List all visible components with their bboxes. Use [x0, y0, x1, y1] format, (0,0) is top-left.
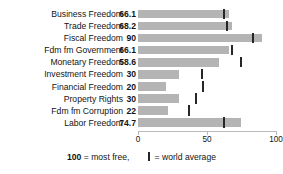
category-label: Labor Freedom — [0, 117, 123, 129]
category-label: Trade Freedom — [0, 20, 123, 32]
legend-average-text: = world average — [155, 152, 216, 162]
value-bar — [138, 46, 229, 55]
axis-tick-label: 0 — [136, 135, 141, 144]
chart-row: Monetary Freedom58.6 — [0, 56, 283, 68]
value-label: 20 — [112, 81, 136, 93]
category-label: Fdm fm Corruption — [0, 105, 123, 117]
chart-row: Property Rights30 — [0, 93, 283, 105]
world-average-marker — [202, 81, 204, 91]
bar-track — [138, 8, 276, 20]
value-bar — [138, 94, 179, 103]
world-average-marker — [223, 117, 225, 127]
value-label: 68.2 — [112, 20, 136, 32]
chart-row: Fdm fm Corruption22 — [0, 105, 283, 117]
category-label: Property Rights — [0, 93, 123, 105]
axis-tick-label: 100 — [269, 135, 283, 144]
value-label: 66.1 — [112, 8, 136, 20]
chart-row: Labor Freedom74.7 — [0, 117, 283, 129]
category-label: Business Freedom — [0, 8, 123, 20]
chart-row: Fiscal Freedom90 — [0, 32, 283, 44]
category-label: Monetary Freedom — [0, 56, 123, 68]
world-average-marker — [223, 9, 225, 19]
value-bar — [138, 22, 232, 31]
bar-track — [138, 20, 276, 32]
value-label: 58.6 — [112, 56, 136, 68]
value-label: 90 — [112, 32, 136, 44]
value-bar — [138, 10, 229, 19]
value-bar — [138, 82, 166, 91]
axis-tick-label: 50 — [202, 135, 211, 144]
value-bar — [138, 106, 168, 115]
value-bar — [138, 34, 262, 43]
world-average-marker — [195, 93, 197, 103]
chart-rows: Business Freedom66.1Trade Freedom68.2Fis… — [0, 8, 283, 129]
economic-freedom-bar-chart: Business Freedom66.1Trade Freedom68.2Fis… — [0, 0, 283, 174]
category-label: Fdm fm Government — [0, 44, 123, 56]
world-average-marker — [226, 21, 228, 31]
world-average-marker-icon — [148, 152, 150, 161]
category-label: Financial Freedom — [0, 81, 123, 93]
bar-track — [138, 44, 276, 56]
world-average-marker — [252, 33, 254, 43]
category-label: Investment Freedom — [0, 68, 123, 80]
value-label: 30 — [112, 93, 136, 105]
cut-off-title — [2, 0, 120, 3]
chart-row: Fdm fm Government66.1 — [0, 44, 283, 56]
bar-track — [138, 68, 276, 80]
world-average-marker — [240, 57, 242, 67]
value-label: 30 — [112, 68, 136, 80]
value-label: 22 — [112, 105, 136, 117]
world-average-marker — [201, 69, 203, 79]
world-average-marker — [231, 45, 233, 55]
chart-row: Business Freedom66.1 — [0, 8, 283, 20]
value-bar — [138, 58, 219, 67]
bar-track — [138, 56, 276, 68]
chart-row: Financial Freedom20 — [0, 81, 283, 93]
legend-most-free-value: 100 — [67, 152, 81, 162]
chart-legend: 100 = most free, = world average — [0, 152, 283, 162]
chart-row: Investment Freedom30 — [0, 68, 283, 80]
value-bar — [138, 70, 179, 79]
category-label: Fiscal Freedom — [0, 32, 123, 44]
chart-row: Trade Freedom68.2 — [0, 20, 283, 32]
bar-track — [138, 93, 276, 105]
bar-track — [138, 32, 276, 44]
value-bar — [138, 118, 241, 127]
value-label: 74.7 — [112, 117, 136, 129]
bar-track — [138, 81, 276, 93]
world-average-marker — [188, 105, 190, 115]
bar-track — [138, 117, 276, 129]
bar-track — [138, 105, 276, 117]
legend-most-free-text: = most free, — [84, 152, 130, 162]
value-label: 66.1 — [112, 44, 136, 56]
